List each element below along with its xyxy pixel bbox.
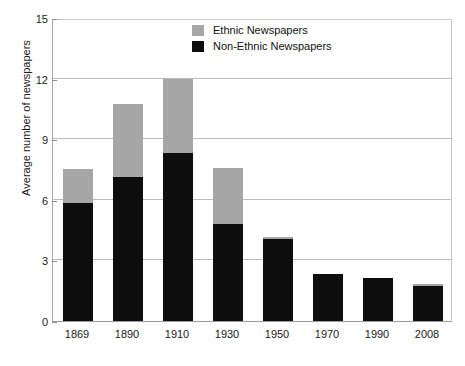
x-axis-tick-labels: 18691890191019301950197019902008 bbox=[52, 328, 452, 344]
legend-label-nonethnic: Non-Ethnic Newspapers bbox=[213, 40, 332, 52]
y-tick-mark-0 bbox=[52, 322, 57, 323]
y-tick-mark-3 bbox=[52, 261, 57, 262]
x-tick-label-2008: 2008 bbox=[415, 328, 439, 340]
bar-1990 bbox=[363, 18, 393, 321]
bar-segment-non-ethnic-1890 bbox=[113, 177, 143, 321]
bar-segment-non-ethnic-1869 bbox=[63, 203, 93, 321]
bar-segment-non-ethnic-1930 bbox=[213, 224, 243, 321]
legend-label-ethnic: Ethnic Newspapers bbox=[213, 24, 308, 36]
y-tick-label-15: 15 bbox=[4, 14, 48, 25]
y-tick-mark-9 bbox=[52, 140, 57, 141]
plot-area bbox=[52, 19, 452, 322]
y-tick-label-3: 3 bbox=[4, 256, 48, 267]
bar-segment-non-ethnic-1950 bbox=[263, 239, 293, 321]
legend-swatch-ethnic-icon bbox=[192, 25, 204, 36]
x-tick-label-1890: 1890 bbox=[115, 328, 139, 340]
x-tick-label-1990: 1990 bbox=[365, 328, 389, 340]
chart-legend: Ethnic NewspapersNon-Ethnic Newspapers bbox=[192, 22, 332, 54]
x-tick-label-1950: 1950 bbox=[265, 328, 289, 340]
bar-segment-non-ethnic-1910 bbox=[163, 153, 193, 321]
y-tick-label-6: 6 bbox=[4, 196, 48, 207]
bar-segment-ethnic-1869 bbox=[63, 169, 93, 203]
x-tick-label-1910: 1910 bbox=[165, 328, 189, 340]
bar-segment-ethnic-1910 bbox=[163, 79, 193, 154]
bar-1970 bbox=[313, 18, 343, 321]
x-tick-label-1930: 1930 bbox=[215, 328, 239, 340]
bar-segment-ethnic-1950 bbox=[263, 237, 293, 239]
bar-1950 bbox=[263, 18, 293, 321]
newspaper-bar-chart: Average number of newspapers 03691215 18… bbox=[0, 0, 465, 366]
bar-segment-ethnic-1930 bbox=[213, 168, 243, 225]
bar-1910 bbox=[163, 18, 193, 321]
bar-segment-non-ethnic-1970 bbox=[313, 274, 343, 321]
bar-1930 bbox=[213, 18, 243, 321]
x-tick-label-1869: 1869 bbox=[65, 328, 89, 340]
y-tick-label-9: 9 bbox=[4, 135, 48, 146]
legend-item-nonethnic: Non-Ethnic Newspapers bbox=[192, 38, 332, 54]
y-tick-label-0: 0 bbox=[4, 317, 48, 328]
legend-item-ethnic: Ethnic Newspapers bbox=[192, 22, 332, 38]
y-tick-mark-15 bbox=[52, 19, 57, 20]
bar-2008 bbox=[413, 18, 443, 321]
y-axis-tick-labels: 03691215 bbox=[0, 19, 48, 322]
bar-segment-ethnic-2008 bbox=[413, 284, 443, 286]
y-tick-mark-6 bbox=[52, 201, 57, 202]
y-tick-label-12: 12 bbox=[4, 75, 48, 86]
legend-swatch-nonethnic-icon bbox=[192, 41, 204, 52]
bar-segment-non-ethnic-1990 bbox=[363, 278, 393, 321]
bar-segment-ethnic-1890 bbox=[113, 104, 143, 177]
bar-segment-non-ethnic-2008 bbox=[413, 286, 443, 321]
x-tick-label-1970: 1970 bbox=[315, 328, 339, 340]
scan-artifact bbox=[0, 358, 465, 366]
bar-1869 bbox=[63, 18, 93, 321]
y-tick-mark-12 bbox=[52, 80, 57, 81]
bar-1890 bbox=[113, 18, 143, 321]
